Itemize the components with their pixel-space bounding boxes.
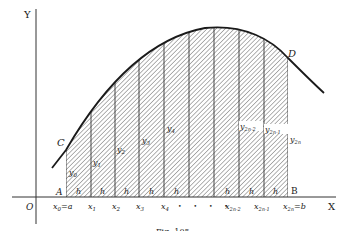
x-tick-x2: x2 — [112, 202, 121, 212]
x-tick-x3: x3 — [136, 202, 145, 212]
point-d-label: D — [287, 48, 296, 59]
svg-text:h: h — [76, 187, 81, 196]
svg-text:h: h — [124, 187, 129, 196]
ordinate-y2n: y2n — [289, 135, 301, 145]
simpson-rule-figure: Y X O C D A B y0 y1 y2 y3 y4 y2n-2 y2n-1… — [0, 0, 350, 231]
x-tick-x1: x1 — [88, 202, 96, 212]
svg-text:h: h — [225, 187, 230, 196]
svg-text:h: h — [100, 187, 105, 196]
x-axis-label: X — [328, 201, 336, 212]
point-b-label: B — [291, 186, 298, 196]
x-tick-x0: x0=a — [53, 202, 73, 212]
svg-text:h: h — [149, 187, 154, 196]
point-c-label: C — [57, 137, 65, 148]
hatched-area — [66, 27, 288, 197]
point-a-label: A — [55, 187, 63, 197]
figure-caption: Fig. 105 — [156, 227, 190, 231]
y-axis-label: Y — [23, 9, 31, 20]
x-tick-x2n-2: x2n-2 — [225, 202, 241, 212]
origin-label: O — [26, 202, 34, 212]
svg-text:h: h — [273, 187, 278, 196]
x-tick-x4: x4 — [161, 202, 170, 212]
svg-text:h: h — [249, 187, 254, 196]
svg-text:h: h — [174, 187, 179, 196]
x-tick-x2n-1: x2n-1 — [254, 202, 270, 212]
x-tick-x2n: x2n=b — [283, 202, 306, 212]
